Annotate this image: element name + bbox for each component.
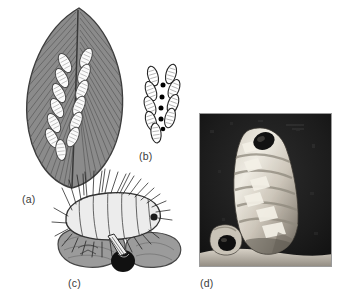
panel-b-illustration (140, 62, 200, 147)
larva-eye-spot (150, 213, 157, 220)
panel-a-label: (a) (22, 193, 35, 205)
panel-c-label: (c) (68, 277, 81, 289)
panel-d-photograph (199, 113, 332, 267)
panel-c-illustration (50, 162, 185, 280)
panel-b-label: (b) (139, 150, 152, 162)
secondary-specimen (210, 225, 242, 255)
secondary-dark-head (218, 235, 236, 251)
photo-frame (199, 113, 332, 267)
egg-cluster (142, 63, 183, 144)
figure-root: (a) (0, 0, 347, 306)
panel-d-label: (d) (200, 277, 213, 289)
